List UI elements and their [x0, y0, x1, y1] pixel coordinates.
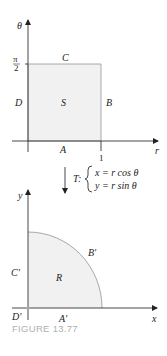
y-axis-label: y [17, 190, 23, 201]
edge-label-a: A [59, 144, 67, 155]
region-r [28, 232, 102, 308]
r-axis-label: r [155, 145, 159, 156]
edge-label-d: D [14, 97, 23, 108]
transformation-name: T: [73, 173, 81, 184]
top-plot: θ r π 2 1 C B D A S [12, 20, 159, 163]
region-label-r: R [55, 272, 62, 283]
region-label-s: S [61, 97, 66, 108]
equation-x: x = r cos θ [94, 167, 138, 178]
origin-dot [26, 306, 29, 309]
edge-label-d-prime: D′ [11, 311, 22, 322]
bottom-plot: y x B′ C′ D′ A′ R [11, 190, 157, 324]
figure-caption: FIGURE 13.77 [12, 323, 78, 334]
polar-transformation-diagram: θ r π 2 1 C B D A S T: x = r cos θ y = r… [0, 0, 167, 356]
edge-label-c-prime: C′ [11, 267, 21, 278]
transformation: T: x = r cos θ y = r sin θ [65, 166, 138, 193]
tick-label-one: 1 [99, 153, 104, 163]
theta-axis-label: θ [17, 20, 22, 31]
equation-y: y = r sin θ [94, 180, 137, 191]
x-axis-label: x [151, 313, 157, 324]
tick-label-2: 2 [14, 63, 19, 73]
edge-label-b: B [106, 97, 112, 108]
edge-label-c: C [62, 52, 69, 63]
brace-icon [85, 166, 92, 192]
edge-label-b-prime: B′ [88, 247, 97, 258]
